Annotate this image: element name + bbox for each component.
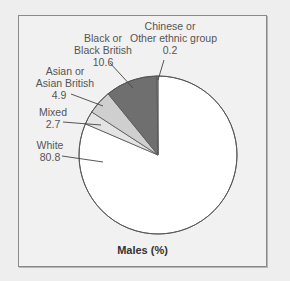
label-mixed-value: 2.7 <box>38 118 68 130</box>
label-white-value: 80.8 <box>36 151 64 163</box>
label-black: Black or Black British 10.6 <box>70 32 136 68</box>
label-asian: Asian or Asian British 4.9 <box>35 65 95 101</box>
label-chinese: Chinese or Other ethnic group 0.2 <box>130 20 210 56</box>
label-mixed-line1: Mixed <box>38 106 68 118</box>
label-chinese-value: 0.2 <box>130 44 210 56</box>
label-mixed: Mixed 2.7 <box>38 106 68 130</box>
label-asian-value: 4.9 <box>23 89 95 101</box>
label-black-line1: Black or <box>70 32 136 44</box>
label-asian-line1: Asian or <box>35 65 95 77</box>
label-white: White 80.8 <box>36 139 64 163</box>
label-chinese-line1: Chinese or <box>130 20 210 32</box>
label-asian-line2: Asian British <box>35 77 95 89</box>
label-chinese-line2: Other ethnic group <box>130 32 210 44</box>
pie-slices <box>79 76 237 234</box>
chart-title: Males (%) <box>18 244 267 256</box>
label-black-line2: Black British <box>70 44 136 56</box>
label-white-line1: White <box>36 139 64 151</box>
